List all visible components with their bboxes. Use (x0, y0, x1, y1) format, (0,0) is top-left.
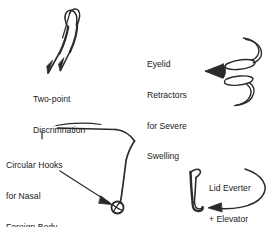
label-eyelid-line4: Swelling (147, 151, 187, 161)
label-lid-everter: Lid Everter + Elevator (209, 163, 251, 227)
label-eyelid-retractors: Eyelid Retractors for Severe Swelling (147, 39, 187, 182)
eyelid-retractors-drawing (205, 38, 261, 106)
label-circular-hooks-line3: Foreign Body (6, 222, 63, 227)
label-two-point-line2: Discrimnation (33, 125, 85, 135)
label-two-point-line1: Two-point (33, 94, 85, 104)
label-circular-hooks: Circular Hooks for Nasal Foreign Body (6, 140, 63, 227)
label-circular-hooks-line1: Circular Hooks (6, 160, 63, 170)
instrument-figure: Two-point Discrimnation Eyelid Retractor… (0, 0, 278, 227)
two-point-discriminator-drawing (47, 9, 80, 74)
label-lid-everter-line1: Lid Everter (209, 183, 251, 193)
label-eyelid-line1: Eyelid (147, 59, 187, 69)
label-eyelid-line3: for Severe (147, 121, 187, 131)
label-eyelid-line2: Retractors (147, 90, 187, 100)
label-lid-everter-line2: + Elevator (209, 214, 251, 224)
label-circular-hooks-line2: for Nasal (6, 191, 63, 201)
